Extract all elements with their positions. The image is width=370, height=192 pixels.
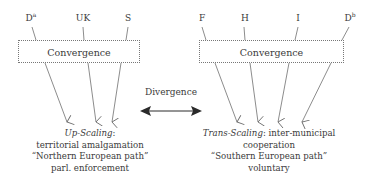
arrow-line — [112, 63, 121, 122]
connector-line — [342, 27, 349, 40]
right-convergence-box: Convergence — [199, 40, 344, 63]
left-convergence-label: Convergence — [19, 46, 139, 57]
arrow-line — [302, 63, 331, 122]
right-caption-line: “Southern European path” — [203, 151, 336, 163]
left-caption-line: parl. enforcement — [32, 163, 149, 175]
connector-line — [126, 27, 128, 40]
arrow-line — [88, 63, 96, 122]
right-caption-line: cooperation — [203, 140, 336, 152]
source-label-s: S — [125, 13, 131, 23]
left-caption-title: Up-Scaling — [65, 128, 113, 138]
right-convergence-label: Convergence — [200, 46, 343, 57]
arrow-line — [250, 63, 258, 122]
divergence-double-arrow — [140, 106, 202, 116]
connector-line — [244, 27, 245, 40]
connector-line — [295, 27, 298, 40]
source-label-h: H — [241, 13, 249, 23]
connector-line — [83, 27, 84, 40]
arrow-line — [45, 63, 67, 122]
source-label-i: I — [296, 13, 300, 23]
left-caption-line: territorial amalgamation — [32, 140, 149, 152]
source-label-d-a: Da — [26, 13, 37, 23]
source-label-d-b: Db — [344, 13, 355, 23]
source-label-f: F — [199, 13, 205, 23]
right-caption-title: Trans-Scaling — [203, 128, 263, 138]
connector-line — [32, 27, 36, 40]
right-caption: Trans-Scaling: inter-municipal cooperati… — [203, 128, 336, 174]
left-caption-line: “Northern European path” — [32, 151, 149, 163]
arrow-line — [215, 63, 237, 122]
arrow-line — [278, 63, 289, 122]
left-convergence-box: Convergence — [18, 40, 140, 63]
left-caption: Up-Scaling: territorial amalgamation “No… — [32, 128, 149, 174]
source-label-uk: UK — [76, 13, 90, 23]
divergence-label: Divergence — [145, 87, 197, 97]
right-caption-title-line: Trans-Scaling: inter-municipal — [203, 128, 336, 140]
connector-line — [202, 27, 206, 40]
left-caption-title-line: Up-Scaling: — [32, 128, 149, 140]
right-caption-line: voluntary — [203, 163, 336, 175]
